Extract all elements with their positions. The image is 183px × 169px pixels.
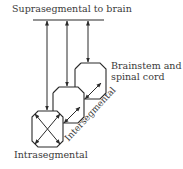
diagram-canvas: Suprasegmental to brain Brainstem and sp… bbox=[0, 0, 183, 169]
brainstem-label: Brainstem and spinal cord bbox=[111, 60, 182, 82]
brainstem-label-line2: spinal cord bbox=[111, 71, 182, 82]
diagram-graphic bbox=[0, 0, 183, 169]
brainstem-label-line1: Brainstem and bbox=[111, 60, 182, 71]
intrasegmental-label: Intrasegmental bbox=[14, 150, 88, 160]
title-label: Suprasegmental to brain bbox=[12, 4, 132, 14]
